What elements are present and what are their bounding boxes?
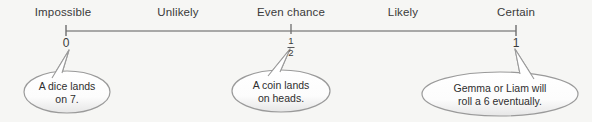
fraction-numerator: 1 [288,36,293,46]
fraction-denominator: 2 [288,48,293,58]
tick-value-zero: 0 [63,36,70,50]
tick-value-half: 1 2 [288,36,295,58]
scale-label-impossible: Impossible [35,6,91,18]
bubble-shape-certain [422,72,578,116]
scale-label-certain: Certain [497,6,535,18]
scale-label-unlikely: Unlikely [157,6,198,18]
probability-scale-diagram: Impossible Unlikely Even chance Likely C… [0,0,592,122]
bubble-shape-even-chance [232,70,330,112]
bubble-shape-impossible [24,71,110,113]
scale-label-even-chance: Even chance [257,6,325,18]
tick-value-one: 1 [513,36,520,50]
speech-bubbles-layer [0,0,592,122]
scale-label-likely: Likely [388,6,418,18]
